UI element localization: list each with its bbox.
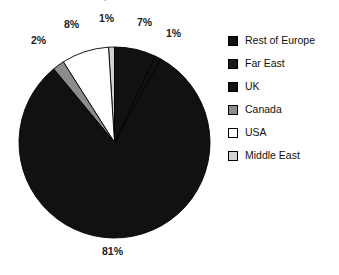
legend-item-label: Canada [245,104,282,115]
legend-item[interactable]: Middle East [228,144,336,167]
legend-item[interactable]: Canada [228,98,336,121]
legend-swatch-icon [228,105,238,115]
pie-chart-figure: Table 1.4 UK Export Markets 1998 2005 2%… [0,0,339,275]
legend-item[interactable]: Rest of Europe [228,29,336,52]
legend-swatch-icon [228,59,238,69]
chart-title: Table 1.4 UK Export Markets 1998 2005 [0,0,240,1]
legend-item-label: Far East [245,58,285,69]
pie-label-far-east: 7% [137,16,152,28]
legend-item-label: Rest of Europe [245,35,315,46]
pie-svg [18,46,211,239]
legend-swatch-icon [228,128,238,138]
legend-swatch-icon [228,151,238,161]
legend: Rest of EuropeFar EastUKCanadaUSAMiddle … [228,29,336,167]
pie-label-rest-of-europe: 81% [102,245,123,257]
legend-item-label: Middle East [245,150,300,161]
pie-label-canada: 2% [31,34,46,46]
legend-item-label: UK [245,81,260,92]
pie-label-uk: 1% [166,27,181,39]
legend-item[interactable]: UK [228,75,336,98]
pie-slice-group [19,47,210,238]
pie-label-middle-east: 1% [99,12,114,24]
pie-label-usa: 8% [64,18,79,30]
legend-swatch-icon [228,36,238,46]
pie-graphic [18,46,211,239]
legend-swatch-icon [228,82,238,92]
legend-item-label: USA [245,127,267,138]
legend-item[interactable]: USA [228,121,336,144]
legend-item[interactable]: Far East [228,52,336,75]
